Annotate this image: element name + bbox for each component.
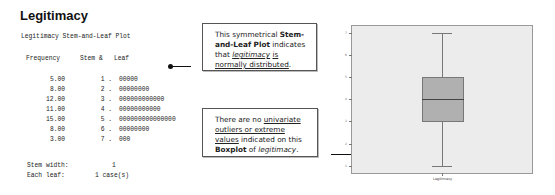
leaf-cell: 00000 [112, 76, 138, 83]
x-axis-label: Legitimacy [433, 177, 452, 181]
leaf-header: Leaf [114, 55, 129, 62]
callout-text: indicated on this [239, 135, 302, 144]
pointer-line [171, 66, 191, 67]
frequency-cell: 8.00 [21, 86, 65, 93]
y-tick-label: 1 [345, 164, 347, 168]
each-leaf-label: Each leaf: [27, 172, 65, 179]
y-tick [349, 55, 352, 56]
stem-cell: 2 . [65, 86, 112, 93]
stem-width-label: Stem width: [27, 162, 69, 169]
y-tick [349, 121, 352, 122]
stem-leaf-row: 3.007 .000 [21, 136, 176, 146]
callout-text: . [296, 145, 298, 154]
x-tick [442, 173, 443, 176]
frequency-cell: 12.00 [21, 96, 65, 103]
boxplot-callout: There are no univariate outliers or extr… [202, 108, 318, 157]
stem-cell: 5 . [65, 116, 112, 123]
callout-italic-text: legitimacy [258, 145, 296, 154]
stem-leaf-row: 8.006 .00000000 [21, 126, 176, 136]
y-tick [349, 144, 352, 145]
y-tick-label: 6 [345, 53, 347, 57]
callout-text: . [289, 60, 291, 69]
stem-header: Stem & [80, 55, 103, 62]
stem-leaf-title: Legitimacy Stem-and-Leaf Plot [21, 33, 131, 40]
stem-cell: 6 . [65, 126, 112, 133]
lower-whisker [442, 121, 443, 166]
leaf-cell: 000000000000000 [112, 116, 176, 123]
stem-cell: 3 . [65, 96, 112, 103]
callout-bold-text: Boxplot [215, 145, 247, 154]
leaf-cell: 00000000 [112, 126, 149, 133]
each-leaf-value: 1 case(s) [95, 172, 129, 179]
stem-leaf-row: 11.004 .00000000000 [21, 106, 176, 116]
page-title: Legitimacy [20, 8, 88, 23]
frequency-cell: 8.00 [21, 126, 65, 133]
upper-whisker [442, 33, 443, 77]
stem-leaf-row: 5.001 .00000 [21, 76, 176, 86]
leaf-cell: 00000000 [112, 86, 149, 93]
stem-width-value: 1 [112, 162, 116, 169]
y-tick-label: 5 [345, 75, 347, 79]
stem-leaf-row: 8.002 .00000000 [21, 86, 176, 96]
y-tick [349, 99, 352, 100]
callout-text: of [247, 145, 259, 154]
stem-cell: 7 . [65, 136, 112, 143]
y-tick-label: 7 [345, 31, 347, 35]
stem-cell: 1 . [65, 76, 112, 83]
callout-text: This symmetrical [215, 30, 280, 39]
y-tick [349, 77, 352, 78]
frequency-cell: 3.00 [21, 136, 65, 143]
frequency-cell: 5.00 [21, 76, 65, 83]
stem-leaf-rows: 5.001 .00000 8.002 .00000000 12.003 .000… [21, 76, 176, 146]
frequency-header: Frequency [26, 55, 60, 62]
stem-leaf-row: 12.003 .000000000000 [21, 96, 176, 106]
frequency-cell: 15.00 [21, 116, 65, 123]
median-line [422, 99, 464, 100]
y-tick [349, 166, 352, 167]
callout-italic-text: legitimacy [232, 50, 270, 59]
stem-cell: 4 . [65, 106, 112, 113]
leaf-cell: 000 [112, 136, 130, 143]
y-tick-label: 2 [345, 142, 347, 146]
stem-leaf-callout: This symmetrical Stem-and-Leaf Plot indi… [202, 23, 317, 71]
lower-whisker-cap [432, 166, 452, 167]
callout-text: There are no [215, 115, 264, 124]
y-tick [349, 33, 352, 34]
y-tick-label: 3 [345, 119, 347, 123]
frequency-cell: 11.00 [21, 106, 65, 113]
leaf-cell: 00000000000 [112, 106, 161, 113]
stem-leaf-row: 15.005 .000000000000000 [21, 116, 176, 126]
leaf-cell: 000000000000 [112, 96, 164, 103]
y-tick-label: 4 [345, 97, 347, 101]
